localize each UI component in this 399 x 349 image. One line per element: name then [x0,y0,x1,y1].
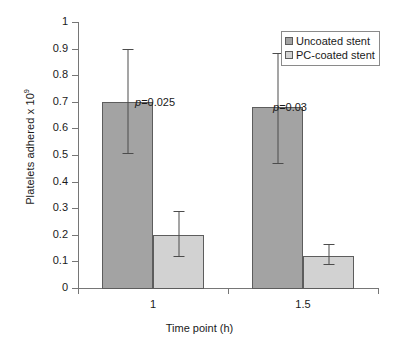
y-tick: 0.1 [72,261,78,262]
y-tick-label: 0.3 [53,201,68,213]
error-bar-stem [328,244,329,265]
error-bar-stem [127,49,128,154]
y-tick: 0.8 [72,75,78,76]
error-bar-cap-bottom [122,153,133,154]
legend-item-label: PC-coated stent [296,48,375,62]
legend-item-label: Uncoated stent [296,34,370,48]
y-tick-label: 0.2 [53,228,68,240]
legend-item[interactable]: PC-coated stent [285,48,375,62]
x-axis-title: Time point (h) [0,322,399,334]
y-tick: 0.5 [72,155,78,156]
y-axis-line [78,22,79,289]
legend-swatch-uncoated [285,37,293,45]
bar-chart: Platelets adhered x 109 Time point (h) 0… [0,0,399,349]
y-tick: 0.9 [72,49,78,50]
y-axis-title-exponent: 9 [22,89,31,93]
y-tick-label: 0.4 [53,175,68,187]
error-bar [120,49,136,154]
y-tick: 0.3 [72,208,78,209]
y-tick-label: 0.1 [53,254,68,266]
y-axis-title-text: Platelets adhered x 10 [24,93,36,205]
error-bar-stem [178,211,179,258]
error-bar-cap-top [122,49,133,50]
p-value-annotation: p=0.03 [273,101,307,113]
error-bar-cap-top [323,244,334,245]
y-tick-label: 1 [62,15,68,27]
legend: Uncoated stentPC-coated stent [281,31,380,66]
y-tick-label: 0.9 [53,42,68,54]
x-tick [228,288,229,294]
p-value-text: =0.03 [279,101,307,113]
y-tick-label: 0.7 [53,95,68,107]
x-tick [78,288,79,294]
x-tick-label: 1.5 [273,298,333,310]
y-tick: 0.7 [72,102,78,103]
y-tick: 0.4 [72,182,78,183]
y-tick-label: 0.8 [53,68,68,80]
error-bar-cap-bottom [323,264,334,265]
error-bar-cap-top [173,211,184,212]
error-bar [171,211,187,258]
p-value-text: =0.025 [141,96,175,108]
x-tick [378,288,379,294]
y-tick: 0.2 [72,235,78,236]
y-tick: 1 [72,22,78,23]
y-tick-label: 0 [62,281,68,293]
error-bar-cap-bottom [272,163,283,164]
p-value-annotation: p=0.025 [135,96,175,108]
error-bar [321,244,337,265]
y-axis-title: Platelets adhered x 109 [22,37,36,257]
y-tick-label: 0.5 [53,148,68,160]
y-tick-label: 0.6 [53,121,68,133]
y-tick: 0.6 [72,128,78,129]
legend-swatch-pc-coated [285,51,293,59]
error-bar-cap-bottom [173,256,184,257]
x-tick-label: 1 [123,298,183,310]
legend-item[interactable]: Uncoated stent [285,34,375,48]
